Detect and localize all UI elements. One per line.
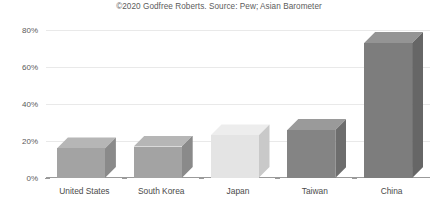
bar-chart: ©2020 Godfree Roberts. Source: Pew; Asia… [0,0,438,215]
x-tick-label: South Korea [123,186,200,196]
x-tick-mark [352,178,357,179]
bar-front-face [364,43,412,178]
bar-front-face [134,147,182,178]
bar[interactable] [57,137,105,178]
y-tick-label: 80% [0,26,38,35]
y-tick-label: 20% [0,137,38,146]
y-tick-label: 40% [0,100,38,109]
bar[interactable] [211,124,259,178]
x-tick-mark [122,178,127,179]
bar[interactable] [364,32,412,178]
x-tick-label: United States [46,186,123,196]
bar-front-face [211,135,259,178]
x-tick-label: China [353,186,430,196]
x-tick-mark [45,178,50,179]
chart-title: ©2020 Godfree Roberts. Source: Pew; Asia… [0,2,438,11]
x-tick-mark [199,178,204,179]
y-tick-label: 0% [0,174,38,183]
y-tick-label: 60% [0,63,38,72]
bar-side-face [412,32,423,178]
bar-front-face [287,130,335,178]
x-tick-mark [275,178,280,179]
x-tick-label: Taiwan [276,186,353,196]
bar[interactable] [134,136,182,178]
x-tick-label: Japan [200,186,277,196]
bars-layer [46,30,430,178]
bar-front-face [57,148,105,178]
bar[interactable] [287,119,335,178]
